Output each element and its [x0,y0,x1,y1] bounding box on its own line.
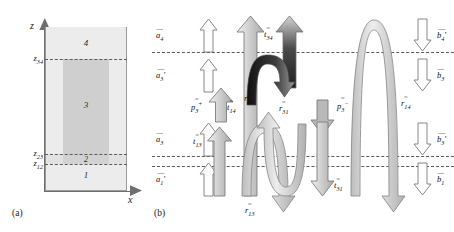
label-t14: ≡ t14 [227,100,236,114]
arrow-canvas [152,0,454,232]
arrow-b3-prime [414,123,431,155]
label-t34: ≡ t34 [264,27,273,41]
figure-root: z x 4 3 2 1 z34 [0,0,454,232]
interface-line-z12 [45,164,127,165]
arrow-t31 [311,122,334,196]
label-t13: ≡ t13 [193,134,202,148]
label-b3-sub: 3 [441,75,444,82]
label-b1: ― b1 [437,172,444,186]
arrow-b4-prime [414,19,431,51]
label-r13-sub: 13 [248,210,254,217]
label-r13: ≡ r13 [245,203,255,217]
label-r31-sub: 31 [282,108,288,115]
interface-line-z34 [45,59,127,60]
z-tick-z12: z12 [10,158,43,170]
label-a3-prime: ― a3′ [156,68,165,82]
core-column [63,59,109,161]
layer-label-1: 1 [45,170,127,180]
label-a4: ― a4 [156,28,163,42]
label-b4-prime-mark: ′ [444,30,446,40]
x-axis-arrowhead [130,184,150,204]
x-axis-label: x [128,194,132,205]
label-a3-prime-mark: ′ [163,70,165,80]
label-t13-sub: 13 [195,141,201,148]
label-t31-sub: 31 [336,185,342,192]
label-r14: ≡ r14 [401,96,411,110]
label-p3-minus-sub: 3 [341,106,344,113]
label-r14-sub: 14 [404,103,410,110]
label-p3-minus: ≡ p3− [337,97,348,113]
arrow-b1 [414,163,431,195]
z-tick-z34-sub: 34 [37,58,43,65]
label-b1-sub: 1 [441,179,444,186]
panel-b: ― a4 ― a3′ ― a3 ― a1′ ≡ t14 ≡ t34 ≡ p3+ [152,0,454,232]
arrow-r14 [351,20,405,212]
layer-label-2: 2 [45,155,127,164]
label-b3: ― b3 [437,68,444,82]
label-b3-prime-mark: ′ [444,134,446,144]
label-p3-plus-sup: + [198,101,202,107]
label-r34-sub: 34 [247,98,253,105]
label-r31: ≡ r31 [279,101,289,115]
label-a1-prime-mark: ′ [163,174,165,184]
label-a4-sub: 4 [160,35,163,42]
label-p3-plus: ≡ p3+ [191,98,202,114]
arrow-a4 [200,19,217,52]
layer-label-3: 3 [45,100,127,110]
layer-label-4: 4 [45,38,127,48]
label-t31: ≡ t31 [334,178,343,192]
z-tick-z12-sub: 12 [37,163,43,170]
panel-a: z x 4 3 2 1 z34 [0,0,152,232]
arrow-a3-prime [200,59,217,92]
label-a3: ― a3 [156,132,163,146]
label-t34-sub: 34 [266,34,272,41]
z-tick-z34: z34 [10,53,43,65]
label-b3-prime: ― b3′ [437,132,446,146]
label-p3-plus-sub: 3 [195,107,198,114]
label-b4-prime: ― b4′ [437,28,446,42]
label-t14-sub: 14 [229,107,235,114]
label-a3-sub: 3 [160,139,163,146]
arrow-b3 [414,59,431,91]
panel-a-tag: (a) [12,208,23,218]
panel-b-tag: (b) [154,208,165,218]
z-axis-label: z [30,20,34,31]
label-a1-prime: ― a1′ [156,172,165,186]
label-p3-minus-sup: − [344,100,348,106]
label-r34: ≡ r34 [244,91,254,105]
